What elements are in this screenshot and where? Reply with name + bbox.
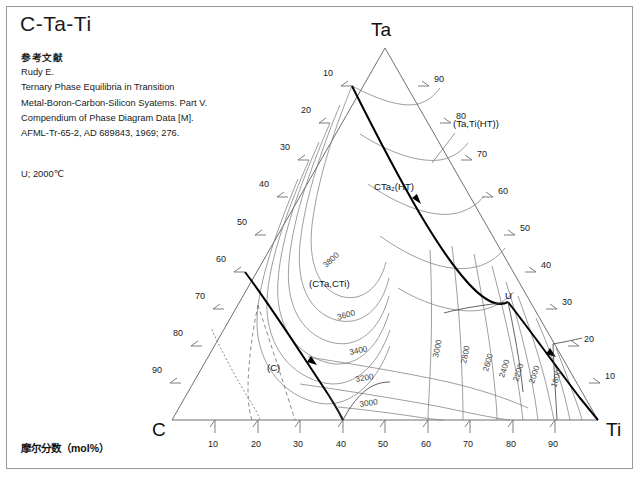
contour-label: 3000: [431, 338, 444, 358]
phase-label-c: (C): [267, 362, 280, 373]
right-tick-label: 90: [434, 74, 444, 84]
univariant-lines: [245, 86, 598, 420]
left-tick-label: 40: [259, 179, 269, 189]
vertex-labels: Ta C Ti: [152, 19, 621, 440]
right-tick-label: 50: [520, 223, 530, 233]
left-tick-label: 80: [173, 328, 183, 338]
right-tick-label: 30: [562, 297, 572, 307]
right-tick-label: 10: [605, 371, 615, 381]
right-tick-label: 70: [477, 149, 487, 159]
right-tick-label: 20: [584, 334, 594, 344]
vertex-label-c: C: [152, 419, 166, 440]
contour-label: 2000: [527, 364, 541, 385]
right-tick-label: 60: [498, 186, 508, 196]
bottom-tick-label: 60: [421, 439, 431, 449]
bottom-tick-label: 90: [548, 439, 558, 449]
left-tick-label: 60: [216, 254, 226, 264]
bottom-tick-label: 10: [208, 439, 218, 449]
bottom-tick-label: 50: [378, 439, 388, 449]
contour-labels: 3800 3600 3400 3200 3000 3000 2800 2600 …: [321, 250, 563, 409]
invariant-point-u-label: U: [505, 290, 512, 301]
contour-label: 3000: [359, 397, 379, 409]
ternary-diagram: 10 20 30 40 50 60 70 80 90 90 80 70 60 5…: [0, 0, 641, 477]
contour-label: 3600: [336, 308, 356, 322]
vertex-label-ta: Ta: [371, 19, 392, 40]
right-tick-label: 40: [541, 260, 551, 270]
phase-diagram-page: C-Ta-Ti 参考文献 Rudy E. Ternary Phase Equil…: [0, 0, 641, 477]
phase-label-ta-ti-ht: (Ta,Ti(HT)): [453, 118, 499, 129]
contour-label: 3800: [321, 250, 341, 269]
contour-label: 3200: [355, 372, 375, 384]
left-tick-label: 20: [301, 105, 311, 115]
bottom-tick-label: 20: [251, 439, 261, 449]
triangle-axes: [172, 48, 598, 420]
phase-label-cta2-ht: CTa₂(HT): [374, 181, 414, 192]
bottom-tick-label: 30: [293, 439, 303, 449]
left-tick-label: 70: [195, 291, 205, 301]
left-tick-label: 90: [152, 365, 162, 375]
contour-label: 2400: [497, 358, 511, 379]
bottom-tick-label: 80: [506, 439, 516, 449]
right-axis-ticks: 90 80 70 60 50 40 30 20 10: [418, 74, 615, 383]
bottom-tick-label: 70: [463, 439, 473, 449]
left-tick-label: 10: [323, 68, 333, 78]
phase-label-cta-cti: (CTa,CTi): [309, 278, 350, 289]
contour-label: 2200: [511, 362, 525, 383]
left-tick-label: 30: [280, 142, 290, 152]
left-axis-ticks: 10 20 30 40 50 60 70 80 90: [152, 68, 352, 383]
bottom-axis-ticks: 10 20 30 40 50 60 70 80 90: [208, 420, 558, 449]
bottom-tick-label: 40: [336, 439, 346, 449]
left-tick-label: 50: [237, 217, 247, 227]
vertex-label-ti: Ti: [606, 419, 621, 440]
contour-label: 3400: [349, 344, 369, 357]
